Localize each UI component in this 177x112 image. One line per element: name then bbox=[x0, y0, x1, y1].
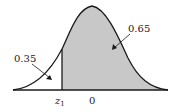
right-area-label: 0.65 bbox=[128, 23, 150, 34]
z-subscript: 1 bbox=[60, 100, 64, 108]
normal-curve-diagram: 0.35 0.65 z1 0 bbox=[0, 0, 177, 112]
z-label: z1 bbox=[54, 95, 65, 108]
left-area-label: 0.35 bbox=[14, 53, 36, 64]
mean-label: 0 bbox=[89, 95, 95, 106]
